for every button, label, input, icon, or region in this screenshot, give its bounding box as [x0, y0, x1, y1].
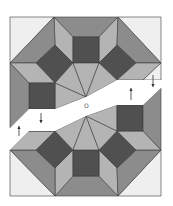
dissection-diagram: O: [0, 0, 173, 206]
left-square: [29, 83, 55, 109]
right-square: [117, 105, 143, 131]
bottom-center-square: [73, 150, 99, 176]
center-point-label: O: [84, 102, 89, 109]
top-center-square: [73, 37, 99, 63]
